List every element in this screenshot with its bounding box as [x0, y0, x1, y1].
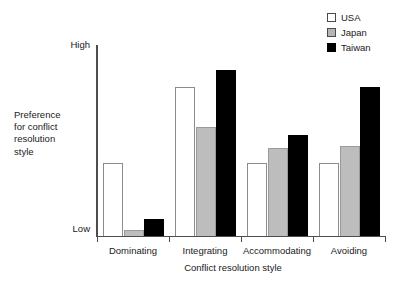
bar-chart-figure: USA Japan Taiwan Preference for conflict… [0, 0, 394, 288]
x-axis-category-label-avoiding: Avoiding [313, 245, 385, 257]
y-axis-title-line-3: resolution [14, 133, 92, 145]
legend-swatch-japan-icon [327, 28, 336, 37]
bar-accommodating-taiwan [288, 135, 308, 236]
legend-swatch-usa-icon [327, 13, 336, 22]
bar-integrating-usa [175, 87, 195, 236]
bar-group-avoiding [313, 45, 385, 236]
bar-avoiding-taiwan [360, 87, 380, 236]
x-axis-category-label-integrating: Integrating [169, 245, 241, 257]
x-axis-tick-4 [385, 236, 386, 242]
x-axis-tick-0 [97, 236, 98, 242]
legend-item-usa: USA [327, 11, 391, 24]
x-axis-tick-1 [169, 236, 170, 242]
y-axis-title-line-2: for conflict [14, 121, 92, 133]
x-axis-category-label-dominating: Dominating [97, 245, 169, 257]
y-axis-title: Preference for conflict resolution style [14, 109, 92, 158]
bar-avoiding-usa [319, 163, 339, 236]
bar-dominating-taiwan [144, 219, 164, 236]
y-axis-title-line-1: Preference [14, 109, 92, 121]
x-axis-title: Conflict resolution style [97, 262, 369, 274]
y-axis-tick-label-high: High [30, 39, 90, 51]
y-axis-tick-label-low: Low [30, 223, 90, 235]
bar-avoiding-japan [340, 146, 360, 236]
legend-label-japan: Japan [341, 27, 367, 38]
legend-label-usa: USA [341, 12, 361, 23]
bar-group-integrating [169, 45, 241, 236]
bar-dominating-usa [103, 163, 123, 236]
bar-integrating-japan [196, 127, 216, 236]
bar-group-dominating [97, 45, 169, 236]
legend-item-japan: Japan [327, 26, 391, 39]
x-axis-tick-3 [313, 236, 314, 242]
y-axis-title-line-4: style [14, 146, 92, 158]
plot-area [97, 45, 386, 236]
x-axis-tick-2 [241, 236, 242, 242]
bar-group-accommodating [241, 45, 313, 236]
bar-integrating-taiwan [216, 70, 236, 236]
bar-accommodating-japan [268, 148, 288, 236]
x-axis-category-label-accommodating: Accommodating [241, 245, 313, 257]
bar-accommodating-usa [247, 163, 267, 236]
bar-dominating-japan [124, 230, 144, 236]
